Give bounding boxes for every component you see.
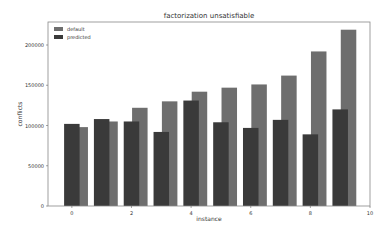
x-tick-label: 4 bbox=[190, 210, 193, 216]
x-tick-label: 6 bbox=[249, 210, 252, 216]
y-tick-label: 150000 bbox=[25, 82, 44, 88]
chart-title: factorization unsatisfiable bbox=[164, 12, 255, 20]
bar-predicted bbox=[124, 121, 140, 206]
bar-predicted bbox=[332, 109, 348, 206]
bar-predicted bbox=[273, 120, 289, 206]
bar-predicted bbox=[183, 101, 199, 206]
bar-predicted bbox=[154, 132, 170, 206]
bar-predicted bbox=[213, 122, 229, 206]
y-tick-label: 200000 bbox=[25, 42, 44, 48]
legend-swatch bbox=[54, 27, 63, 31]
legend-label: default bbox=[67, 26, 85, 32]
x-tick-label: 10 bbox=[367, 210, 373, 216]
bar-chart: factorization unsatisfiable 050000100000… bbox=[0, 0, 388, 233]
x-tick-label: 8 bbox=[309, 210, 312, 216]
legend-label: predicted bbox=[67, 34, 91, 41]
bar-predicted bbox=[243, 128, 259, 206]
x-tick-label: 2 bbox=[130, 210, 133, 216]
y-axis-label: conflicts bbox=[16, 102, 23, 127]
legend-swatch bbox=[54, 35, 63, 39]
bar-predicted bbox=[303, 134, 319, 206]
legend: defaultpredicted bbox=[54, 26, 91, 41]
y-tick-label: 100000 bbox=[25, 123, 44, 129]
x-tick-label: 0 bbox=[70, 210, 73, 216]
bar-predicted bbox=[94, 119, 110, 206]
y-tick-label: 50000 bbox=[28, 163, 44, 169]
bar-predicted bbox=[64, 124, 80, 206]
x-axis-label: instance bbox=[196, 215, 222, 222]
y-tick-label: 0 bbox=[41, 203, 44, 209]
